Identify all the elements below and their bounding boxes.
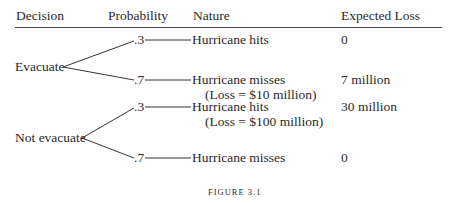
probability-not-evacuate-misses: .7 xyxy=(134,150,144,165)
header-probability: Probability xyxy=(108,8,168,23)
branch-evacuate-hits xyxy=(63,41,134,67)
nature-note-not-evacuate-hits: (Loss = $100 million) xyxy=(205,114,323,129)
expected-loss-not-evacuate-hits: 30 million xyxy=(341,99,397,114)
figure-caption: FIGURE 3.1 xyxy=(208,185,261,200)
probability-evacuate-hits: .3 xyxy=(134,32,144,47)
expected-loss-evacuate-hits: 0 xyxy=(341,32,348,47)
expected-loss-evacuate-misses: 7 million xyxy=(341,72,390,87)
probability-not-evacuate-hits: .3 xyxy=(134,99,144,114)
nature-not-evacuate-misses: Hurricane misses xyxy=(192,150,285,165)
header-expected-loss: Expected Loss xyxy=(341,8,420,23)
header-nature: Nature xyxy=(193,8,230,23)
probability-evacuate-misses: .7 xyxy=(134,72,144,87)
decision-evacuate: Evacuate xyxy=(15,59,64,74)
nature-evacuate-misses: Hurricane misses xyxy=(192,72,285,87)
nature-evacuate-hits: Hurricane hits xyxy=(192,32,269,47)
branch-not-evacuate-hits xyxy=(82,108,134,138)
expected-loss-not-evacuate-misses: 0 xyxy=(341,150,348,165)
nature-not-evacuate-hits: Hurricane hits xyxy=(192,99,269,114)
branch-not-evacuate-misses xyxy=(82,138,134,158)
branch-evacuate-misses xyxy=(63,67,134,80)
decision-not-evacuate: Not evacuate xyxy=(15,130,86,145)
header-decision: Decision xyxy=(16,8,64,23)
